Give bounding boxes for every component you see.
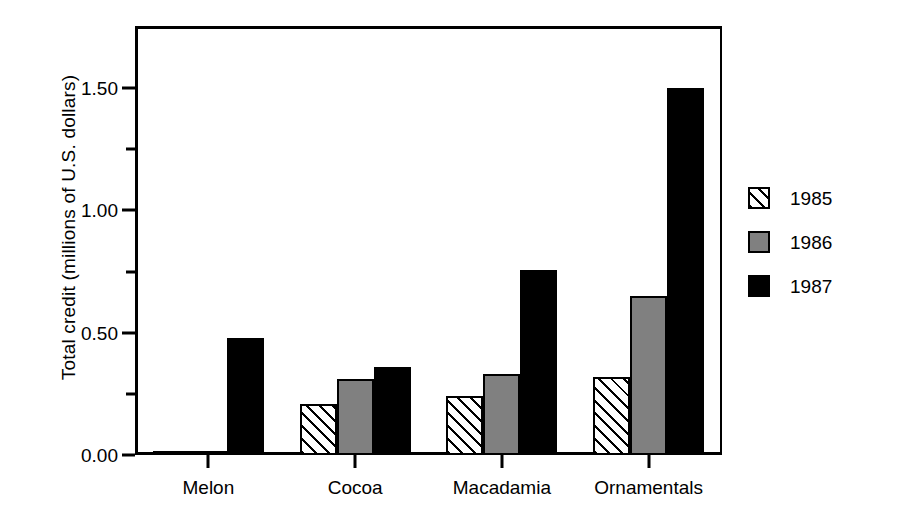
legend-label: 1987 xyxy=(790,277,832,296)
y-axis-tick-label: 0.50 xyxy=(46,323,118,342)
x-axis-tick xyxy=(500,455,503,468)
legend-label: 1986 xyxy=(790,233,832,252)
y-axis-minor-tick xyxy=(126,148,135,151)
y-axis-tick-label: 0.00 xyxy=(46,446,118,465)
bar-chart-figure: Total credit (millions of U.S. dollars) … xyxy=(0,0,914,524)
y-axis-tick-labels: 0.000.501.001.50 xyxy=(46,0,118,524)
x-axis-tick xyxy=(207,455,210,468)
legend-label: 1985 xyxy=(790,189,832,208)
x-axis-tick-label: Cocoa xyxy=(328,478,383,497)
bar xyxy=(630,296,667,455)
y-axis-major-tick xyxy=(122,87,135,90)
legend-swatch-icon xyxy=(748,275,770,297)
chart-legend: 198519861987 xyxy=(748,176,898,308)
bar xyxy=(337,379,374,455)
x-axis-tick xyxy=(647,455,650,468)
legend-item-1986: 1986 xyxy=(748,220,898,264)
bar xyxy=(520,270,557,455)
y-axis-major-tick xyxy=(122,209,135,212)
bar xyxy=(593,377,630,455)
bar xyxy=(667,88,704,455)
x-axis-tick xyxy=(354,455,357,468)
y-axis-major-tick xyxy=(122,331,135,334)
legend-item-1987: 1987 xyxy=(748,264,898,308)
x-axis-tick-label: Ornamentals xyxy=(594,478,703,497)
y-axis-tick-label: 1.00 xyxy=(46,201,118,220)
bar xyxy=(446,396,483,455)
y-axis-minor-tick xyxy=(126,270,135,273)
legend-swatch-icon xyxy=(748,187,770,209)
bars-layer xyxy=(135,26,722,455)
y-axis-minor-tick xyxy=(126,392,135,395)
legend-item-1985: 1985 xyxy=(748,176,898,220)
bar xyxy=(374,367,411,455)
legend-swatch-icon xyxy=(748,231,770,253)
bar xyxy=(153,451,190,455)
bar xyxy=(227,338,264,455)
bar xyxy=(300,404,337,455)
y-axis-tick-label: 1.50 xyxy=(46,79,118,98)
bar xyxy=(483,374,520,455)
x-axis-tick-label: Macadamia xyxy=(453,478,551,497)
y-axis-major-tick xyxy=(122,454,135,457)
x-axis-tick-label: Melon xyxy=(183,478,235,497)
